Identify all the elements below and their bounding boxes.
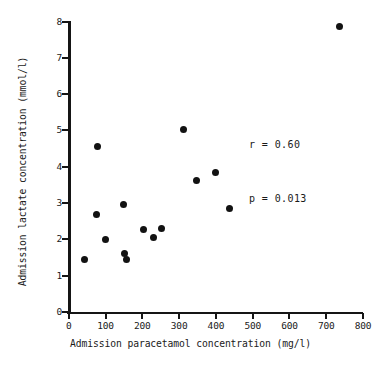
y-axis-tick-labels: 012345678 [32,0,62,369]
x-tick-label: 300 [159,321,199,331]
y-tick-label: 0 [38,307,62,317]
x-tick-mark [105,313,107,319]
data-point [336,23,343,30]
x-tick-mark [141,313,143,319]
y-tick-label: 4 [38,162,62,172]
plot-area [68,22,363,313]
y-tick-label: 6 [38,89,62,99]
statistics-annotation: r = 0.60 p = 0.013 [249,100,307,244]
y-axis-line [68,21,71,314]
x-tick-mark [288,313,290,319]
y-tick-label: 5 [38,125,62,135]
x-tick-label: 200 [122,321,162,331]
y-tick-mark [62,93,68,95]
y-tick-label: 8 [38,17,62,27]
y-tick-label: 3 [38,198,62,208]
x-axis-title: Admission paracetamol concentration (mg/… [0,338,381,349]
x-tick-label: 100 [86,321,126,331]
correlation-coefficient-text: r = 0.60 [249,136,307,154]
x-tick-label: 500 [233,321,273,331]
data-point [193,177,200,184]
y-tick-label: 2 [38,234,62,244]
x-tick-mark [362,313,364,319]
scatter-plot-figure: 012345678 0100200300400500600700800 r = … [0,0,381,369]
y-tick-mark [62,129,68,131]
data-point [102,236,109,243]
x-tick-label: 0 [49,321,89,331]
y-tick-label: 7 [38,53,62,63]
y-tick-mark [62,57,68,59]
y-axis-title: Admission lactate concentration (mmol/l) [17,22,28,322]
x-tick-mark [68,313,70,319]
y-tick-mark [62,21,68,23]
data-point [150,234,157,241]
y-tick-label: 1 [38,271,62,281]
x-tick-mark [215,313,217,319]
y-tick-mark [62,166,68,168]
y-tick-mark [62,275,68,277]
x-tick-label: 700 [306,321,346,331]
x-tick-label: 800 [343,321,381,331]
x-tick-label: 600 [269,321,309,331]
y-tick-mark [62,238,68,240]
data-point [140,226,147,233]
x-tick-label: 400 [196,321,236,331]
data-point [180,126,187,133]
data-point [226,205,233,212]
x-tick-mark [178,313,180,319]
x-tick-mark [252,313,254,319]
y-tick-mark [62,202,68,204]
p-value-text: p = 0.013 [249,190,307,208]
x-tick-mark [325,313,327,319]
